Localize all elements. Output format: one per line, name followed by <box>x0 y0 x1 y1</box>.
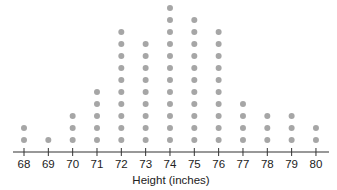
data-dot <box>45 137 51 143</box>
data-dot <box>216 113 222 119</box>
x-tick-label: 80 <box>310 158 323 170</box>
x-tick-label: 79 <box>285 158 298 170</box>
data-dot <box>21 137 27 143</box>
data-dot <box>143 113 149 119</box>
data-dot <box>289 113 295 119</box>
data-dot <box>143 65 149 71</box>
x-tick-label: 73 <box>139 158 152 170</box>
data-dot <box>167 53 173 59</box>
data-dot <box>118 89 124 95</box>
data-dot <box>143 41 149 47</box>
data-dot <box>118 77 124 83</box>
data-dot <box>143 137 149 143</box>
data-dot <box>264 137 270 143</box>
data-dot <box>118 29 124 35</box>
data-dot <box>167 101 173 107</box>
data-dot <box>191 137 197 143</box>
data-dot <box>143 101 149 107</box>
x-tick-label: 70 <box>66 158 79 170</box>
data-dot <box>240 113 246 119</box>
dot-plot: 68697071727374757677787980 Height (inche… <box>0 0 337 190</box>
data-dot <box>167 113 173 119</box>
data-dot <box>216 125 222 131</box>
data-dot <box>70 113 76 119</box>
x-tick-label: 68 <box>18 158 31 170</box>
data-dot <box>167 29 173 35</box>
data-dot <box>118 41 124 47</box>
data-dot <box>94 113 100 119</box>
data-dot <box>216 137 222 143</box>
x-tick-label: 78 <box>261 158 274 170</box>
data-dot <box>240 101 246 107</box>
data-dot <box>216 101 222 107</box>
data-dot <box>289 137 295 143</box>
x-tick-label: 75 <box>188 158 201 170</box>
data-dot <box>21 125 27 131</box>
data-dot <box>191 41 197 47</box>
data-dot <box>216 29 222 35</box>
data-dot <box>118 137 124 143</box>
data-dot <box>191 17 197 23</box>
data-dot <box>70 137 76 143</box>
data-dot <box>143 89 149 95</box>
data-dot <box>289 125 295 131</box>
data-dot <box>143 53 149 59</box>
data-dot <box>167 89 173 95</box>
data-dot <box>191 29 197 35</box>
data-dot <box>118 53 124 59</box>
data-dot <box>313 137 319 143</box>
data-dot <box>167 137 173 143</box>
data-dot <box>216 53 222 59</box>
data-dot <box>191 113 197 119</box>
x-tick-label: 77 <box>237 158 250 170</box>
data-dot <box>118 65 124 71</box>
data-dot <box>118 113 124 119</box>
data-dot <box>94 101 100 107</box>
data-dot <box>94 125 100 131</box>
x-tick-label: 76 <box>212 158 225 170</box>
data-dot <box>216 41 222 47</box>
data-dot <box>191 65 197 71</box>
data-dot <box>240 125 246 131</box>
data-dot <box>216 89 222 95</box>
data-dot <box>264 125 270 131</box>
data-dot <box>191 101 197 107</box>
data-dot <box>143 77 149 83</box>
data-dot <box>167 77 173 83</box>
data-dot <box>167 65 173 71</box>
x-axis-label: Height (inches) <box>132 174 210 186</box>
data-dot <box>167 5 173 11</box>
data-dot <box>94 89 100 95</box>
data-dot <box>216 65 222 71</box>
data-dot <box>118 101 124 107</box>
data-dot <box>216 77 222 83</box>
x-axis-ticks: 68697071727374757677787980 <box>18 148 323 170</box>
data-dot <box>191 53 197 59</box>
data-dot <box>143 125 149 131</box>
data-dot <box>167 17 173 23</box>
data-dot <box>70 125 76 131</box>
data-dot <box>167 125 173 131</box>
x-tick-label: 72 <box>115 158 128 170</box>
data-dot <box>167 41 173 47</box>
data-dot <box>240 137 246 143</box>
x-tick-label: 69 <box>42 158 55 170</box>
data-dot <box>94 137 100 143</box>
data-dot <box>191 125 197 131</box>
x-tick-label: 74 <box>164 158 177 170</box>
data-dot <box>313 125 319 131</box>
data-dot <box>191 89 197 95</box>
data-dot <box>191 77 197 83</box>
data-dot <box>264 113 270 119</box>
dot-columns <box>21 5 319 143</box>
data-dot <box>118 125 124 131</box>
x-tick-label: 71 <box>91 158 104 170</box>
